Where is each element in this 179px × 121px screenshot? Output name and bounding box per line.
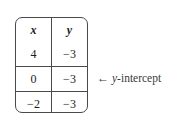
column-header-x: x	[16, 18, 52, 42]
table-body: 4 −3 0 −3 −2 −3	[16, 42, 87, 113]
annotation-text: -intercept	[117, 72, 161, 84]
table-row: 4 −3	[16, 42, 87, 67]
value-table: x y 4 −3 0 −3 −2 −3	[15, 17, 88, 113]
cell-x-row-2: −2	[16, 92, 52, 114]
cell-x-row-1: 0	[16, 67, 52, 92]
y-intercept-annotation: ← y-intercept	[97, 72, 161, 85]
figure-table-of-values: x y 4 −3 0 −3 −2 −3 ← y-in	[0, 0, 179, 121]
column-header-y: y	[52, 18, 88, 42]
left-arrow-icon: ←	[97, 72, 109, 84]
cell-y-row-2: −3	[52, 92, 88, 114]
cell-y-row-0: −3	[52, 42, 88, 67]
table-row: −2 −3	[16, 92, 87, 114]
table-header: x y	[16, 18, 87, 42]
cell-y-row-1: −3	[52, 67, 88, 92]
value-table-grid: x y 4 −3 0 −3 −2 −3	[16, 18, 87, 113]
y-intercept-label: y-intercept	[112, 73, 161, 85]
cell-x-row-0: 4	[16, 42, 52, 67]
table-header-row: x y	[16, 18, 87, 42]
table-row: 0 −3	[16, 67, 87, 92]
